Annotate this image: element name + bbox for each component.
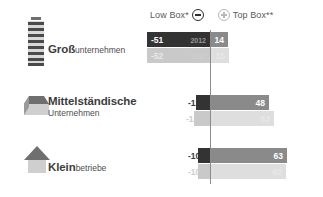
bar-positive-mittelstand-2012[interactable]: 48 [211,95,269,110]
bar-negative-mittelstand-2012[interactable] [196,95,210,110]
bar-value-top-gross-2010: 15 [216,51,225,60]
bar-positive-gross-2012[interactable]: 14 [211,32,228,47]
category-name-sub-mittelstand: Unternehmen [48,109,137,118]
bar-negative-gross-2010[interactable]: -52 2010 [147,48,210,63]
bar-value-top-mittelstand-2012: 48 [256,98,265,107]
bar-value-top-klein-2010: 62 [273,167,282,176]
bar-value-low-gross-2010: -52 [151,51,163,60]
bar-negative-klein-2012[interactable] [198,148,210,163]
legend-item-top-box[interactable]: Top Box** [218,9,273,21]
bar-year-gross-2012: 2012 [190,36,206,43]
bar-positive-klein-2012[interactable]: 63 [211,148,287,163]
chart-root: Low Box* Top Box** [0,0,323,197]
bar-negative-gross-2012[interactable]: -51 2012 [147,32,210,47]
bar-negative-mittelstand-2010[interactable] [194,111,210,126]
bar-positive-mittelstand-2010[interactable]: 53 [211,111,274,126]
category-label-klein: Kleinbetriebe [48,161,106,173]
high-rise-building-icon [24,17,48,71]
bar-positive-gross-2010[interactable]: 15 [211,48,229,63]
bar-positive-klein-2010[interactable]: 62 [211,164,286,179]
plus-circle-icon [218,9,230,21]
bar-year-gross-2010: 2010 [190,52,206,59]
bar-value-low-gross-2012: -51 [151,35,163,44]
bar-negative-klein-2010[interactable] [198,164,210,179]
chart-legend: Low Box* Top Box** [150,7,273,23]
category-label-mittelstand: Mittelständische Unternehmen [48,95,137,118]
category-name-thin-klein: betriebe [76,163,107,173]
legend-label-low-box: Low Box* [150,11,189,20]
house-icon [23,145,51,179]
minus-circle-icon [192,9,204,21]
legend-label-top-box: Top Box** [233,11,273,20]
bar-value-top-klein-2012: 63 [274,151,283,160]
category-name-thin-gross: unternehmen [75,45,125,55]
category-name-bold-gross: Groß [48,43,75,55]
mid-rise-building-icon [22,94,50,122]
category-name-bold-mittelstand: Mittelständische [48,95,137,107]
category-name-bold-klein: Klein [48,161,76,173]
bar-value-top-mittelstand-2010: 53 [261,114,270,123]
bar-value-top-gross-2012: 14 [215,35,224,44]
category-label-gross: Großunternehmen [48,43,125,55]
legend-item-low-box[interactable]: Low Box* [150,9,204,21]
